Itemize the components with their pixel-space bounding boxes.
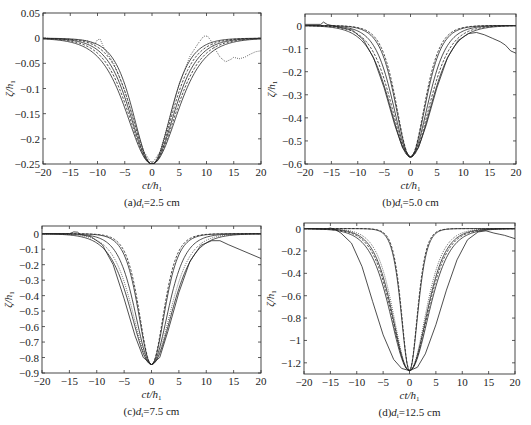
x-tick-label: 0 xyxy=(149,166,155,178)
y-tick-label: −0.1 xyxy=(19,243,39,255)
x-tick-label: 10 xyxy=(201,375,213,387)
y-tick-label: 0 xyxy=(297,20,303,32)
x-tick-label: −10 xyxy=(89,166,107,178)
x-tick-label: 0 xyxy=(149,375,155,387)
series-profile-5 xyxy=(43,39,261,164)
figure-4-panel: −20−15−10−5051015200.050−0.05−0.1−0.15−0… xyxy=(0,0,531,425)
panel-caption: (a)di=2.5 cm xyxy=(124,196,180,210)
series-profile-3 xyxy=(43,38,261,164)
series-profile-4 xyxy=(42,234,261,365)
y-tick-label: −0.8 xyxy=(19,352,39,364)
x-tick-label: 10 xyxy=(201,166,213,178)
x-axis-label: ct/h1 xyxy=(142,388,163,402)
series-profile-1 xyxy=(304,229,515,371)
axes-frame xyxy=(304,223,515,374)
y-tick-label: −0.8 xyxy=(281,312,301,324)
series-profile-2 xyxy=(42,234,261,365)
panel-d-chart: −20−15−10−5051015200−0.2−0.4−0.6−0.8−1−1… xyxy=(264,223,521,420)
x-tick-label: 10 xyxy=(457,376,469,388)
y-tick-label: −0.7 xyxy=(19,336,39,348)
x-axis-label: ct/h1 xyxy=(401,179,422,193)
series-profile-3 xyxy=(305,26,516,157)
panel-a-chart: −20−15−10−5051015200.050−0.05−0.1−0.15−0… xyxy=(3,7,267,210)
series-profile-2 xyxy=(305,26,516,158)
y-axis-label: ζ/h1 xyxy=(264,290,278,307)
y-tick-label: −0.5 xyxy=(282,135,302,147)
y-axis-label: ζ/h1 xyxy=(2,291,16,308)
y-tick-label: −0.3 xyxy=(282,89,302,101)
axes-frame xyxy=(43,13,261,164)
x-tick-label: −10 xyxy=(348,376,366,388)
series-group xyxy=(43,36,261,164)
panel-caption: (c)di=7.5 cm xyxy=(124,405,180,419)
y-tick-label: −0.05 xyxy=(15,57,41,69)
y-tick-label: −0.2 xyxy=(20,133,40,145)
x-tick-label: −10 xyxy=(88,375,106,387)
y-tick-label: −0.4 xyxy=(19,290,39,302)
series-profile-1 xyxy=(42,234,261,365)
y-tick-label: −1 xyxy=(289,334,301,346)
series-profile-3 xyxy=(304,229,515,371)
x-tick-label: 5 xyxy=(434,166,440,178)
series-profile-5 xyxy=(42,234,261,365)
y-tick-label: −0.9 xyxy=(19,367,39,379)
x-tick-label: 10 xyxy=(458,166,470,178)
series-measured xyxy=(43,36,261,164)
y-tick-label: 0 xyxy=(296,223,302,235)
y-tick-label: −0.6 xyxy=(19,321,39,333)
x-tick-label: 20 xyxy=(510,376,522,388)
panel-b-chart: −20−15−10−5051015200−0.1−0.2−0.3−0.4−0.5… xyxy=(265,14,522,210)
x-tick-label: −5 xyxy=(118,375,130,387)
series-measured xyxy=(304,228,515,371)
x-tick-label: −15 xyxy=(323,166,341,178)
series-profile-1 xyxy=(43,38,261,164)
series-measured xyxy=(305,22,516,157)
x-tick-label: −5 xyxy=(119,166,131,178)
series-profile-4 xyxy=(305,26,516,157)
x-tick-label: 5 xyxy=(177,166,183,178)
y-tick-label: −0.25 xyxy=(15,158,41,170)
x-axis-label: ct/h1 xyxy=(400,389,421,403)
series-profile-5 xyxy=(305,26,516,157)
series-profile-2 xyxy=(304,229,515,371)
series-measured xyxy=(42,232,261,365)
x-tick-label: 5 xyxy=(433,376,439,388)
x-tick-label: 15 xyxy=(228,166,240,178)
y-tick-label: −1.2 xyxy=(281,357,301,369)
y-tick-label: −0.4 xyxy=(281,267,301,279)
panel-caption: (b)di=5.0 cm xyxy=(382,196,439,210)
x-tick-label: 15 xyxy=(483,376,495,388)
y-tick-label: −0.2 xyxy=(281,245,301,257)
y-tick-label: 0 xyxy=(34,228,40,240)
x-tick-label: 15 xyxy=(484,166,496,178)
series-profile-5 xyxy=(304,229,515,371)
series-group xyxy=(305,22,516,157)
axes-frame xyxy=(305,14,516,164)
panel-caption: (d)di=12.5 cm xyxy=(379,406,441,420)
series-profile-2 xyxy=(43,38,261,164)
y-tick-label: −0.6 xyxy=(282,158,302,170)
panel-c-chart: −20−15−10−5051015200−0.1−0.2−0.3−0.4−0.5… xyxy=(2,226,267,419)
series-profile-4 xyxy=(43,39,261,164)
y-tick-label: 0 xyxy=(35,32,41,44)
y-tick-label: −0.2 xyxy=(282,66,302,78)
series-group xyxy=(304,228,515,371)
y-tick-label: −0.5 xyxy=(19,305,39,317)
series-profile-3 xyxy=(42,234,261,365)
x-tick-label: −15 xyxy=(61,375,79,387)
series-group xyxy=(42,232,261,365)
y-tick-label: −0.15 xyxy=(15,108,41,120)
series-profile-6 xyxy=(304,229,515,371)
x-tick-label: 20 xyxy=(256,166,268,178)
series-profile-4 xyxy=(304,229,515,371)
x-tick-label: 5 xyxy=(176,375,182,387)
x-tick-label: 0 xyxy=(408,166,414,178)
x-axis-label: ct/h1 xyxy=(142,179,163,193)
x-tick-label: 20 xyxy=(256,375,268,387)
x-tick-label: −5 xyxy=(378,166,390,178)
x-tick-label: 0 xyxy=(407,376,413,388)
y-tick-label: −0.1 xyxy=(282,43,302,55)
x-tick-label: −20 xyxy=(295,376,313,388)
series-profile-1 xyxy=(305,26,516,158)
x-tick-label: −5 xyxy=(377,376,389,388)
